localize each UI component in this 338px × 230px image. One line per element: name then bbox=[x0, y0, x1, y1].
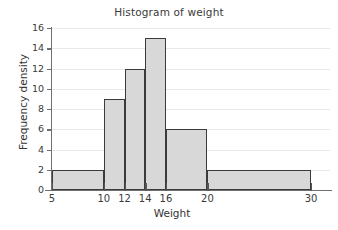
x-tick-mark bbox=[166, 183, 167, 191]
histogram-bar bbox=[166, 129, 207, 190]
histogram-bar bbox=[52, 170, 104, 190]
y-tick-label: 6 bbox=[24, 124, 44, 134]
histogram-bar bbox=[125, 69, 146, 191]
y-tick-mark bbox=[47, 48, 52, 49]
plot-area bbox=[52, 28, 330, 190]
x-axis-title: Weight bbox=[52, 207, 292, 219]
histogram-bar bbox=[145, 38, 166, 190]
x-tick-mark bbox=[207, 183, 208, 191]
y-tick-label: 14 bbox=[24, 43, 44, 53]
y-tick-label: 10 bbox=[24, 84, 44, 94]
y-tick-label: 8 bbox=[24, 104, 44, 114]
y-tick-mark bbox=[47, 170, 52, 171]
y-tick-label: 16 bbox=[24, 23, 44, 33]
y-tick-mark bbox=[47, 89, 52, 90]
y-tick-mark bbox=[47, 28, 52, 29]
x-tick-label: 20 bbox=[195, 193, 219, 205]
x-tick-mark bbox=[311, 183, 312, 191]
x-tick-mark bbox=[104, 183, 105, 191]
chart-title: Histogram of weight bbox=[0, 6, 338, 18]
x-tick-mark bbox=[125, 183, 126, 191]
y-tick-mark bbox=[47, 69, 52, 70]
gridline bbox=[52, 48, 330, 49]
gridline bbox=[52, 89, 330, 90]
x-tick-label: 30 bbox=[299, 193, 323, 205]
y-tick-label: 12 bbox=[24, 64, 44, 74]
x-axis-line bbox=[45, 190, 332, 191]
y-tick-label: 4 bbox=[24, 145, 44, 155]
gridline bbox=[52, 28, 330, 29]
gridline bbox=[52, 109, 330, 110]
x-tick-label: 16 bbox=[154, 193, 178, 205]
histogram-bar bbox=[207, 170, 311, 190]
x-tick-mark bbox=[52, 183, 53, 191]
x-tick-label: 5 bbox=[40, 193, 64, 205]
gridline bbox=[52, 69, 330, 70]
x-tick-mark bbox=[145, 183, 146, 191]
histogram-chart: Histogram of weight Frequency density We… bbox=[0, 0, 338, 230]
histogram-bar bbox=[104, 99, 125, 190]
y-tick-mark bbox=[47, 150, 52, 151]
y-tick-mark bbox=[47, 129, 52, 130]
y-tick-mark bbox=[47, 109, 52, 110]
y-tick-label: 2 bbox=[24, 165, 44, 175]
